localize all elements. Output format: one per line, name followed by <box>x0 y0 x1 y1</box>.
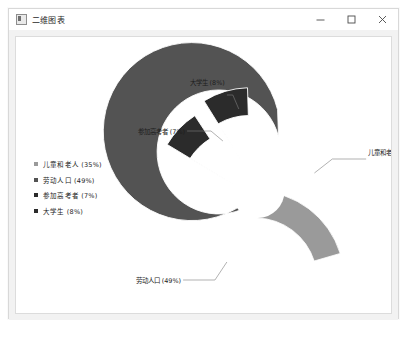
legend-label: 儿童和老人 (35%) <box>43 159 102 169</box>
pie-label-labor-force: 劳动人口 (49%) <box>136 276 181 285</box>
chart-window-icon <box>16 14 27 25</box>
legend-label: 劳动人口 (49%) <box>43 175 95 185</box>
maximize-button[interactable] <box>336 9 367 30</box>
legend-swatch-icon <box>34 178 38 182</box>
pie-label-university-students: 大学生 (8%) <box>190 78 225 87</box>
pie-label-children-elderly: 儿童和老人 (35%) <box>368 148 391 157</box>
leader-line-labor-force <box>183 262 227 280</box>
chart-window: 二维图表 中国高等教育普及率 <box>8 8 399 319</box>
legend-label: 大学生 (8%) <box>43 206 83 216</box>
close-button[interactable] <box>367 9 398 30</box>
legend-item[interactable]: 劳动人口 (49%) <box>34 175 102 185</box>
minimize-button[interactable] <box>305 9 336 30</box>
chart-legend: 儿童和老人 (35%) 劳动人口 (49%) 参加高考者 (7%) 大学生 (8… <box>34 159 102 216</box>
pie-label-exam-takers: 参加高考者 (7%) <box>138 127 185 136</box>
legend-item[interactable]: 大学生 (8%) <box>34 206 102 216</box>
legend-item[interactable]: 参加高考者 (7%) <box>34 190 102 200</box>
window-title: 二维图表 <box>32 14 65 25</box>
legend-swatch-icon <box>34 193 38 197</box>
donut-hole <box>231 164 285 218</box>
client-area: 中国高等教育普及率 儿童和老人 (35%) 劳动 <box>9 30 398 320</box>
legend-swatch-icon <box>34 209 38 213</box>
window-controls <box>305 9 398 30</box>
leader-line-children-elderly <box>314 159 366 173</box>
title-bar[interactable]: 二维图表 <box>9 9 398 30</box>
chart-canvas: 中国高等教育普及率 儿童和老人 (35%) 劳动 <box>15 36 392 314</box>
legend-label: 参加高考者 (7%) <box>43 190 97 200</box>
legend-swatch-icon <box>34 162 38 166</box>
legend-item[interactable]: 儿童和老人 (35%) <box>34 159 102 169</box>
